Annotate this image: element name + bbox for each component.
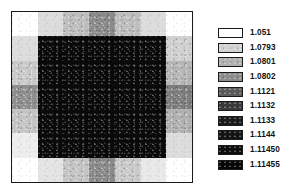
legend-row: 1.0801 [218, 55, 286, 70]
legend-label: 1.11450 [250, 146, 280, 154]
heatmap-cell [166, 109, 192, 133]
legend-label: 1.1144 [250, 131, 275, 139]
heatmap-cell [141, 61, 167, 85]
heatmap-cell [12, 109, 38, 133]
heatmap-cell [166, 12, 192, 36]
heatmap-cell [166, 133, 192, 157]
legend-swatch [218, 160, 243, 170]
legend-row: 1.1144 [218, 128, 286, 143]
heatmap-cell [141, 85, 167, 109]
legend-swatch [218, 130, 243, 140]
legend-row: 1.1121 [218, 84, 286, 99]
legend-swatch [218, 101, 243, 111]
heatmap-cell [38, 158, 64, 182]
heatmap-cell [115, 12, 141, 36]
legend-swatch [218, 57, 243, 67]
heatmap-cell [115, 61, 141, 85]
legend-label: 1.0801 [250, 58, 276, 66]
heatmap-cell [12, 85, 38, 109]
heatmap-cell [141, 36, 167, 60]
legend-label: 1.1132 [250, 102, 275, 110]
heatmap-cell [141, 109, 167, 133]
heatmap-cell [38, 12, 64, 36]
legend-swatch [218, 43, 243, 53]
heatmap-cell [166, 158, 192, 182]
heatmap-cell [89, 85, 115, 109]
legend-row: 1.051 [218, 26, 286, 41]
heatmap-cell [115, 133, 141, 157]
heatmap-cell [38, 109, 64, 133]
heatmap-cell [141, 133, 167, 157]
heatmap-cell [115, 36, 141, 60]
heatmap-cell [89, 158, 115, 182]
heatmap-cell [12, 36, 38, 60]
legend-label: 1.1121 [250, 88, 275, 96]
legend-row: 1.1132 [218, 99, 286, 114]
heatmap-cell [166, 61, 192, 85]
heatmap-cell [115, 158, 141, 182]
heatmap-cell [141, 12, 167, 36]
legend: 1.0511.07931.08011.08021.11211.11321.113… [218, 26, 286, 172]
heatmap-cell [38, 36, 64, 60]
heatmap-cell [166, 36, 192, 60]
legend-swatch [218, 116, 243, 126]
heatmap-cell [12, 12, 38, 36]
legend-label: 1.11455 [250, 161, 280, 169]
legend-swatch [218, 145, 243, 155]
heatmap-cell [141, 158, 167, 182]
heatmap-cell [12, 61, 38, 85]
legend-row: 1.11455 [218, 157, 286, 172]
heatmap-cell [63, 109, 89, 133]
legend-label: 1.0802 [250, 73, 276, 81]
figure-canvas: 1.0511.07931.08011.08021.11211.11321.113… [0, 0, 287, 194]
legend-row: 1.1133 [218, 114, 286, 129]
heatmap-cell [89, 12, 115, 36]
heatmap-cell [63, 158, 89, 182]
heatmap-cell [115, 109, 141, 133]
heatmap-cell [89, 36, 115, 60]
heatmap-cell [63, 61, 89, 85]
legend-swatch [218, 28, 243, 38]
heatmap-cell [63, 133, 89, 157]
legend-label: 1.1133 [250, 117, 275, 125]
heatmap-cell [89, 109, 115, 133]
heatmap-cell [89, 61, 115, 85]
plot-panel [11, 11, 193, 183]
heatmap-cell [166, 85, 192, 109]
legend-label: 1.051 [250, 29, 271, 37]
legend-swatch [218, 72, 243, 82]
legend-row: 1.11450 [218, 143, 286, 158]
heatmap-cell [38, 85, 64, 109]
heatmap-cell [38, 133, 64, 157]
heatmap-cell [115, 85, 141, 109]
heatmap-cell [38, 61, 64, 85]
heatmap-cell [63, 36, 89, 60]
heatmap-grid [12, 12, 192, 182]
legend-swatch [218, 87, 243, 97]
heatmap-cell [63, 85, 89, 109]
legend-row: 1.0793 [218, 41, 286, 56]
heatmap-cell [12, 158, 38, 182]
legend-row: 1.0802 [218, 70, 286, 85]
heatmap-cell [89, 133, 115, 157]
legend-label: 1.0793 [250, 44, 276, 52]
heatmap-cell [12, 133, 38, 157]
heatmap-cell [63, 12, 89, 36]
